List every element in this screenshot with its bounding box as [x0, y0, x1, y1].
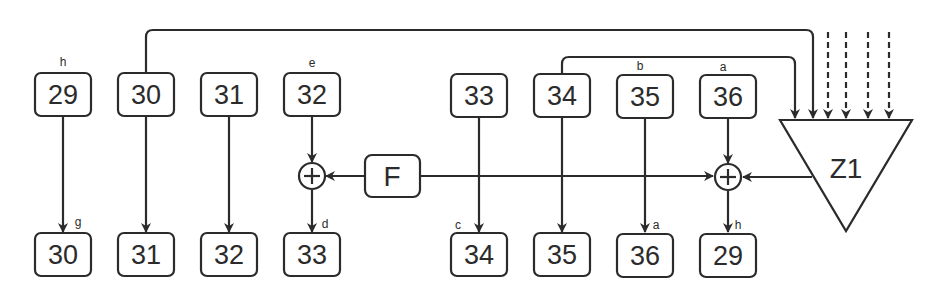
svg-text:31: 31	[214, 80, 244, 110]
register-top-36: 36a	[700, 60, 756, 118]
svg-text:29: 29	[48, 80, 78, 110]
register-shift-diagram: 29h 30 31 32e 33 34 35b 36a 30g 31 32 33…	[0, 0, 946, 296]
svg-text:F: F	[383, 161, 400, 192]
register-top-35: 35b	[617, 59, 673, 118]
svg-text:35: 35	[547, 240, 577, 270]
svg-text:35: 35	[630, 82, 660, 112]
svg-text:a: a	[720, 60, 727, 74]
register-top-31: 31	[201, 73, 257, 116]
bottom-register-row: 30g 31 32 33d 34c 35 36a 29h	[35, 215, 756, 277]
adder-right	[715, 164, 741, 190]
svg-text:h: h	[60, 55, 67, 69]
svg-text:36: 36	[630, 241, 660, 271]
svg-text:d: d	[322, 217, 329, 231]
svg-text:34: 34	[547, 81, 577, 111]
adder-left	[299, 163, 325, 189]
svg-text:36: 36	[713, 82, 743, 112]
svg-text:c: c	[455, 218, 461, 232]
register-top-34: 34	[534, 74, 590, 117]
register-bottom-32: 32	[201, 233, 257, 276]
svg-text:b: b	[637, 59, 644, 73]
register-top-32: 32e	[284, 56, 340, 116]
register-top-30: 30	[118, 73, 174, 116]
svg-text:30: 30	[131, 80, 161, 110]
register-bottom-31: 31	[118, 233, 174, 276]
svg-text:g: g	[75, 215, 82, 229]
top-register-row: 29h 30 31 32e 33 34 35b 36a	[35, 55, 756, 118]
svg-text:32: 32	[214, 240, 244, 270]
function-f-block: F	[365, 155, 420, 197]
svg-text:30: 30	[48, 240, 78, 270]
svg-text:32: 32	[297, 80, 327, 110]
svg-text:e: e	[309, 56, 316, 70]
svg-text:34: 34	[464, 240, 494, 270]
z1-triangle-block: Z1	[780, 120, 912, 231]
register-bottom-35: 35	[534, 233, 590, 276]
register-top-29: 29h	[35, 55, 91, 116]
register-top-33: 33	[451, 74, 507, 117]
svg-text:a: a	[653, 218, 660, 232]
svg-text:h: h	[735, 218, 742, 232]
svg-text:29: 29	[713, 241, 743, 271]
svg-text:31: 31	[131, 240, 161, 270]
svg-text:Z1: Z1	[830, 153, 863, 184]
svg-text:33: 33	[297, 240, 327, 270]
svg-text:33: 33	[464, 81, 494, 111]
